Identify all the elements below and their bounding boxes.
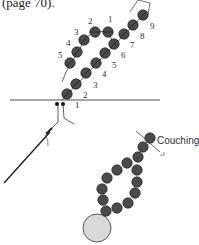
svg-text:3: 3: [74, 27, 79, 37]
svg-text:8: 8: [140, 31, 145, 41]
svg-text:1: 1: [108, 14, 113, 24]
couching-diagram: Couching: [83, 131, 199, 242]
svg-text:5: 5: [58, 50, 63, 60]
couching-label: Couching: [157, 135, 199, 146]
bead-row-b: [65, 27, 113, 68]
row-a-numbers: 1 2 3 4 5 6 7 8 9: [75, 21, 155, 110]
beading-diagram: 1 2 3 4 5 6 7 8 9 5 4 3 2 1: [0, 0, 199, 245]
svg-text:3: 3: [93, 80, 98, 90]
svg-text:4: 4: [66, 38, 71, 48]
svg-text:2: 2: [83, 90, 88, 100]
svg-text:1: 1: [75, 100, 80, 110]
svg-text:5: 5: [112, 60, 117, 70]
large-bead: [83, 214, 111, 242]
svg-text:6: 6: [121, 50, 126, 60]
svg-text:2: 2: [88, 16, 93, 26]
needle-icon: [4, 128, 52, 183]
svg-text:4: 4: [102, 69, 107, 79]
svg-text:7: 7: [130, 40, 135, 50]
svg-text:9: 9: [150, 21, 155, 31]
